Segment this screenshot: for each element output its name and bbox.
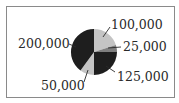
label-200000: 200,000 [18,36,70,51]
pie-chart: 100,000 25,000 125,000 50,000 200,000 [0,0,179,103]
label-100000: 100,000 [111,17,163,32]
label-25000: 25,000 [123,39,167,54]
label-50000: 50,000 [41,78,85,93]
label-125000: 125,000 [117,69,169,84]
